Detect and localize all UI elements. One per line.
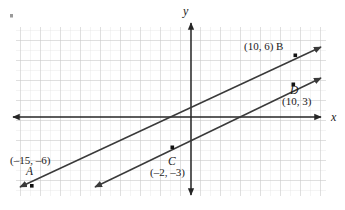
x-axis-label: x: [331, 111, 336, 123]
point-B-marker: [294, 54, 298, 58]
point-label-a-name: A: [26, 165, 33, 177]
point-A-marker: [30, 184, 34, 188]
y-axis-label: y: [183, 5, 188, 17]
point-label-c-coord: (–2, –3): [150, 166, 185, 178]
point-C-marker: [171, 146, 175, 150]
stray-mark: [10, 14, 13, 18]
point-label-b: (10, 6) B: [244, 40, 283, 52]
point-label-d-coord: (10, 3): [282, 95, 311, 107]
coordinate-graph-figure: (10, 6) B D (10, 3) (–15, –6) A C (–2, –…: [0, 0, 345, 210]
